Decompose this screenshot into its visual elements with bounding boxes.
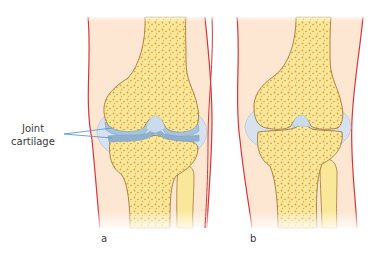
panel-b: [205, 17, 369, 232]
annotation-cartilage: cartilage: [11, 136, 55, 147]
knee-joint-illustration: Joint cartilage a b: [0, 0, 369, 263]
panel-a: [80, 17, 220, 232]
panel-label-a: a: [101, 233, 107, 244]
annotation-joint: Joint: [21, 123, 44, 134]
panel-label-b: b: [250, 233, 256, 244]
